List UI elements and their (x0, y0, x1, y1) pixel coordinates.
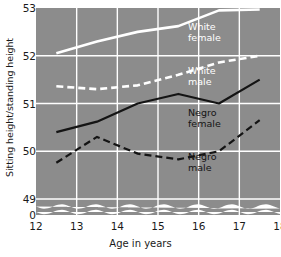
x-tick-label: 12 (29, 220, 42, 232)
chart-figure: Sitting height/standing height 049505152… (0, 0, 281, 257)
x-tick-label: 18 (273, 220, 281, 232)
x-axis-title: Age in years (0, 238, 281, 249)
x-tick-label: 14 (111, 220, 124, 232)
x-tick-label: 13 (70, 220, 83, 232)
x-axis-tick-labels: 12131415161718 (0, 0, 281, 257)
x-tick-label: 17 (233, 220, 246, 232)
x-tick-label: 15 (151, 220, 164, 232)
x-tick-label: 16 (192, 220, 205, 232)
